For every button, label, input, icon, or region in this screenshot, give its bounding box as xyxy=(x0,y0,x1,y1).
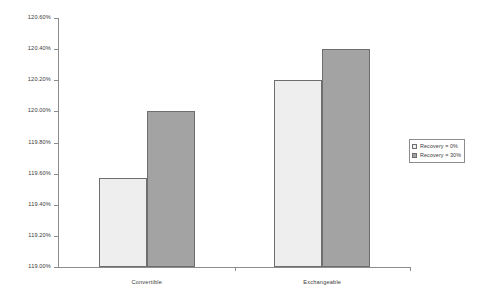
y-axis-tick-mark xyxy=(54,236,58,237)
y-axis-tick: 119.80% xyxy=(0,143,58,144)
x-axis-category-label: Convertible xyxy=(132,279,163,285)
x-axis-tick-mark xyxy=(235,267,236,271)
y-axis-tick: 120.40% xyxy=(0,49,58,50)
y-axis-tick: 120.60% xyxy=(0,18,58,19)
plot-area xyxy=(59,18,410,267)
legend-label: Recovery = 30% xyxy=(420,151,461,160)
y-axis-tick: 119.60% xyxy=(0,174,58,175)
y-axis-tick-label: 120.20% xyxy=(28,75,51,84)
y-axis-tick: 120.00% xyxy=(0,111,58,112)
y-axis-tick-label: 120.40% xyxy=(28,44,51,53)
y-axis-tick-mark xyxy=(54,111,58,112)
y-axis-tick-mark xyxy=(54,18,58,19)
x-axis-category-label: Exchangeable xyxy=(303,279,341,285)
y-axis-tick-mark xyxy=(54,267,58,268)
legend-swatch-icon xyxy=(412,144,417,149)
x-axis-tick-mark xyxy=(410,267,411,271)
y-axis-tick-label: 119.60% xyxy=(28,169,51,178)
bar-chart: 119.00%119.20%119.40%119.60%119.80%120.0… xyxy=(0,0,482,299)
y-axis-tick-label: 119.20% xyxy=(28,231,51,240)
bar-convertible-series-0 xyxy=(99,178,147,267)
legend-item: Recovery = 0% xyxy=(412,142,461,151)
bar-exchangeable-series-0 xyxy=(274,80,322,267)
bar-exchangeable-series-1 xyxy=(322,49,370,267)
legend-label: Recovery = 0% xyxy=(420,142,458,151)
y-axis-tick: 120.20% xyxy=(0,80,58,81)
y-axis-tick-mark xyxy=(54,49,58,50)
y-axis-tick-label: 119.80% xyxy=(28,138,51,147)
y-axis-tick: 119.40% xyxy=(0,205,58,206)
y-axis-tick: 119.20% xyxy=(0,236,58,237)
y-axis-tick: 119.00% xyxy=(0,267,58,268)
legend-item: Recovery = 30% xyxy=(412,151,461,160)
y-axis-tick-mark xyxy=(54,80,58,81)
y-axis-tick-mark xyxy=(54,174,58,175)
y-axis-tick-label: 119.40% xyxy=(28,200,51,209)
bar-convertible-series-1 xyxy=(147,111,195,267)
y-axis-tick-mark xyxy=(54,143,58,144)
chart-legend: Recovery = 0%Recovery = 30% xyxy=(409,139,465,163)
y-axis-tick-mark xyxy=(54,205,58,206)
y-axis-tick-label: 119.00% xyxy=(28,262,51,271)
y-axis-tick-label: 120.00% xyxy=(28,106,51,115)
legend-swatch-icon xyxy=(412,153,417,158)
y-axis-tick-label: 120.60% xyxy=(28,13,51,22)
